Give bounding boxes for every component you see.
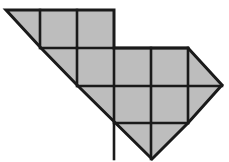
figure-container: [0, 0, 229, 162]
grid-polygon-figure: [0, 0, 229, 162]
